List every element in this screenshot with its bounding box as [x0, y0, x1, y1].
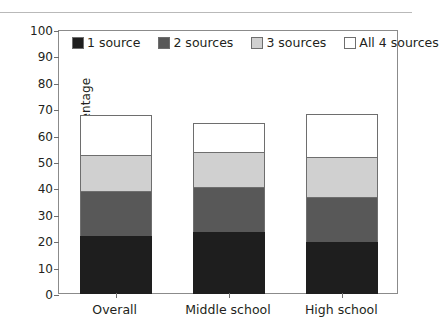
top-divider-rule — [0, 12, 412, 13]
legend-swatch-icon-2 — [158, 37, 170, 49]
legend-swatch-icon-3 — [251, 37, 263, 49]
stacked-bar — [193, 123, 265, 293]
legend-item-4: All 4 sources — [344, 37, 438, 50]
legend-label: 3 sources — [266, 37, 326, 50]
y-tick-mark-70 — [54, 110, 59, 111]
bar-segment — [193, 232, 265, 294]
bar-segment — [80, 236, 152, 294]
bar-segment — [306, 242, 378, 294]
stacked-bar — [306, 114, 378, 293]
bar-segment — [80, 115, 152, 156]
x-tick-mark — [229, 293, 230, 298]
bar-segment — [306, 114, 378, 158]
y-tick-mark-100 — [54, 31, 59, 32]
stacked-bar — [80, 115, 152, 293]
x-axis-label-3: High school — [261, 302, 421, 317]
y-tick-label-40: 40 — [25, 183, 53, 195]
bar-segment — [193, 187, 265, 233]
y-tick-label-10: 10 — [25, 263, 53, 275]
y-tick-mark-50 — [54, 163, 59, 164]
x-tick-mark — [342, 293, 343, 298]
y-tick-mark-20 — [54, 242, 59, 243]
legend-item-2: 2 sources — [158, 37, 233, 50]
legend-label: All 4 sources — [359, 37, 438, 50]
bar-segment — [193, 152, 265, 188]
y-tick-label-30: 30 — [25, 210, 53, 222]
y-tick-label-60: 60 — [25, 131, 53, 143]
y-tick-mark-80 — [54, 84, 59, 85]
y-tick-mark-0 — [54, 295, 59, 296]
y-tick-label-90: 90 — [25, 51, 53, 63]
bar-segment — [80, 191, 152, 237]
y-tick-label-0: 0 — [25, 289, 53, 301]
plot-area: Percentage 0102030405060708090100 — [58, 30, 398, 294]
y-tick-label-50: 50 — [25, 157, 53, 169]
legend-item-3: 3 sources — [251, 37, 326, 50]
y-tick-label-100: 100 — [25, 25, 53, 37]
x-tick-mark — [116, 293, 117, 298]
y-tick-label-70: 70 — [25, 104, 53, 116]
legend-label: 1 source — [87, 37, 140, 50]
legend-swatch-icon-1 — [72, 37, 84, 49]
chart-legend: 1 source2 sources3 sourcesAll 4 sources — [72, 37, 439, 50]
y-tick-label-80: 80 — [25, 78, 53, 90]
y-tick-mark-10 — [54, 269, 59, 270]
bar-segment — [193, 123, 265, 153]
y-tick-mark-30 — [54, 216, 59, 217]
bar-segment — [306, 197, 378, 243]
legend-label: 2 sources — [173, 37, 233, 50]
legend-swatch-icon-4 — [344, 37, 356, 49]
legend-item-1: 1 source — [72, 37, 140, 50]
y-tick-mark-40 — [54, 189, 59, 190]
y-tick-mark-90 — [54, 57, 59, 58]
y-tick-mark-60 — [54, 137, 59, 138]
bar-segment — [80, 155, 152, 192]
y-tick-label-20: 20 — [25, 236, 53, 248]
bar-segment — [306, 157, 378, 198]
